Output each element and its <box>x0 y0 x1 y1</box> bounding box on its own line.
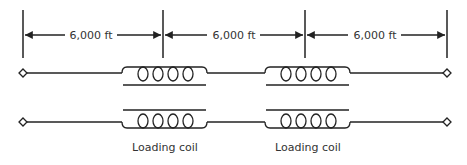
terminal-bottom-right-icon <box>443 118 451 126</box>
terminal-bottom-left-icon <box>19 118 27 126</box>
dimension-label-3: 6,000 ft <box>354 29 398 42</box>
top-line <box>19 67 451 81</box>
terminal-top-right-icon <box>443 69 451 77</box>
terminal-top-left-icon <box>19 69 27 77</box>
loading-coil-diagram: 6,000 ft 6,000 ft 6,000 ft <box>0 0 467 165</box>
coil-cores <box>123 85 349 110</box>
dimension-label-1: 6,000 ft <box>70 29 114 42</box>
dimension-label-2: 6,000 ft <box>213 29 257 42</box>
bottom-line <box>19 114 451 128</box>
coil-label-2: Loading coil <box>275 141 341 154</box>
coil-label-1: Loading coil <box>132 141 198 154</box>
